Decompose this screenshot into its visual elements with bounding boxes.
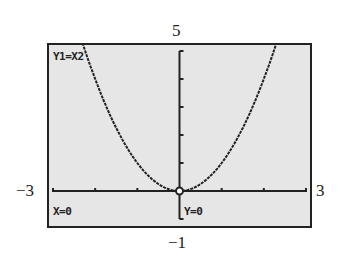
plot-area [49,45,310,226]
xmin-label: −3 [16,182,34,199]
y-readout: Y=0 [184,205,202,218]
xmax-label: 3 [316,182,325,199]
ymax-label: 5 [172,22,181,39]
ymin-label: −1 [168,234,186,251]
x-readout: X=0 [53,205,71,218]
function-label: Y1=X2 [53,50,84,63]
calculator-screen: Y1=X2 X=0 Y=0 [47,43,312,228]
trace-cursor [176,188,183,195]
